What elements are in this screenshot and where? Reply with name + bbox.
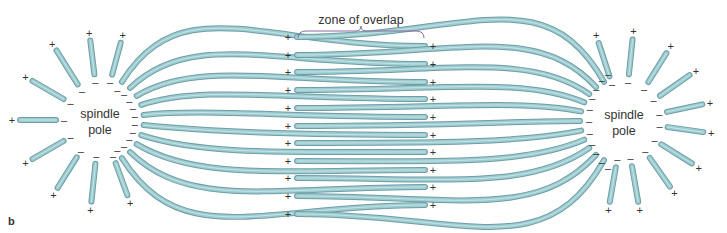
plus-end-sign: +: [430, 129, 436, 141]
plus-end-sign: +: [86, 27, 92, 39]
plus-end-sign: +: [671, 187, 677, 199]
plus-end-sign: +: [430, 164, 436, 176]
plus-end-sign: +: [285, 31, 291, 43]
minus-end-sign: –: [107, 76, 114, 88]
plus-end-sign: +: [707, 97, 713, 109]
minus-end-sign: –: [61, 114, 68, 126]
plus-end-sign: +: [605, 204, 611, 216]
plus-end-sign: +: [708, 127, 714, 139]
panel-label: b: [8, 215, 15, 227]
minus-end-sign: –: [657, 120, 664, 132]
plus-end-sign: +: [693, 65, 699, 77]
polar-microtubule-left: [137, 144, 425, 171]
plus-end-sign: +: [630, 25, 636, 37]
minus-end-sign: –: [656, 108, 663, 120]
plus-end-sign: +: [667, 40, 673, 52]
plus-end-sign: +: [593, 29, 599, 41]
plus-end-sign: +: [285, 66, 291, 78]
minus-end-sign: –: [625, 76, 632, 88]
astral-microtubule-right: [650, 158, 670, 187]
plus-end-sign: +: [285, 49, 291, 61]
right-spindle-pole-label-line1: spindle: [604, 108, 644, 122]
mitotic-spindle-diagram: +–+–+–+–+–+–+–+–+–+–+–+–+–+–+–+–+–+–+–+–…: [0, 0, 727, 233]
plus-end-sign: +: [285, 84, 291, 96]
plus-end-sign: +: [50, 189, 56, 201]
plus-end-sign: +: [430, 181, 436, 193]
minus-end-sign: –: [609, 78, 616, 90]
plus-end-sign: +: [430, 58, 436, 70]
plus-end-sign: +: [430, 146, 436, 158]
plus-end-sign: +: [87, 204, 93, 216]
left-spindle-pole-label-line2: pole: [88, 123, 112, 137]
plus-end-sign: +: [127, 197, 133, 209]
plus-end-sign: +: [285, 190, 291, 202]
left-spindle-pole-label-line1: spindle: [80, 107, 120, 121]
polar-microtubule-left: [137, 144, 425, 171]
plus-end-sign: +: [22, 157, 28, 169]
plus-end-sign: +: [695, 162, 701, 174]
astral-microtubule-left: [58, 157, 77, 188]
plus-end-sign: +: [430, 93, 436, 105]
minus-end-sign: –: [126, 133, 133, 145]
minus-end-sign: –: [628, 152, 635, 164]
right-spindle-pole-label-line2: pole: [612, 124, 636, 138]
minus-end-sign: –: [614, 153, 621, 165]
polar-microtubule-left: [137, 144, 425, 171]
plus-end-sign: +: [9, 114, 15, 126]
plus-end-sign: +: [285, 208, 291, 220]
astral-microtubule-left: [33, 141, 64, 159]
astral-microtubule-right: [661, 144, 692, 163]
plus-end-sign: +: [636, 204, 642, 216]
minus-end-sign: –: [121, 140, 128, 152]
minus-end-sign: –: [110, 150, 117, 162]
minus-end-sign: –: [641, 83, 648, 95]
plus-end-sign: +: [49, 38, 55, 50]
astral-microtubule-right: [660, 75, 690, 96]
minus-end-sign: –: [92, 76, 99, 88]
plus-end-sign: +: [120, 29, 126, 41]
plus-end-sign: +: [430, 40, 436, 52]
minus-end-sign: –: [67, 131, 74, 143]
plus-end-sign: +: [285, 137, 291, 149]
microtubules: [20, 19, 703, 227]
plus-end-sign: +: [430, 199, 436, 211]
minus-end-sign: –: [587, 103, 594, 115]
plus-end-sign: +: [285, 102, 291, 114]
minus-end-sign: –: [599, 74, 606, 86]
minus-end-sign: –: [67, 97, 74, 109]
minus-end-sign: –: [78, 145, 85, 157]
minus-end-sign: –: [650, 94, 657, 106]
minus-end-sign: –: [651, 134, 658, 146]
plus-end-sign: +: [22, 71, 28, 83]
astral-microtubule-left: [33, 81, 64, 99]
minus-end-sign: –: [93, 150, 100, 162]
minus-end-sign: –: [79, 85, 86, 97]
zone-of-overlap-label: zone of overlap: [318, 13, 404, 27]
astral-microtubule-right: [648, 53, 666, 82]
minus-end-sign: –: [605, 162, 612, 174]
astral-microtubule-left: [57, 51, 78, 85]
plus-end-sign: +: [430, 111, 436, 123]
plus-end-sign: +: [285, 172, 291, 184]
plus-end-sign: +: [285, 155, 291, 167]
plus-end-sign: +: [430, 76, 436, 88]
minus-end-sign: –: [642, 145, 649, 157]
plus-end-sign: +: [285, 120, 291, 132]
minus-end-sign: –: [586, 115, 593, 127]
